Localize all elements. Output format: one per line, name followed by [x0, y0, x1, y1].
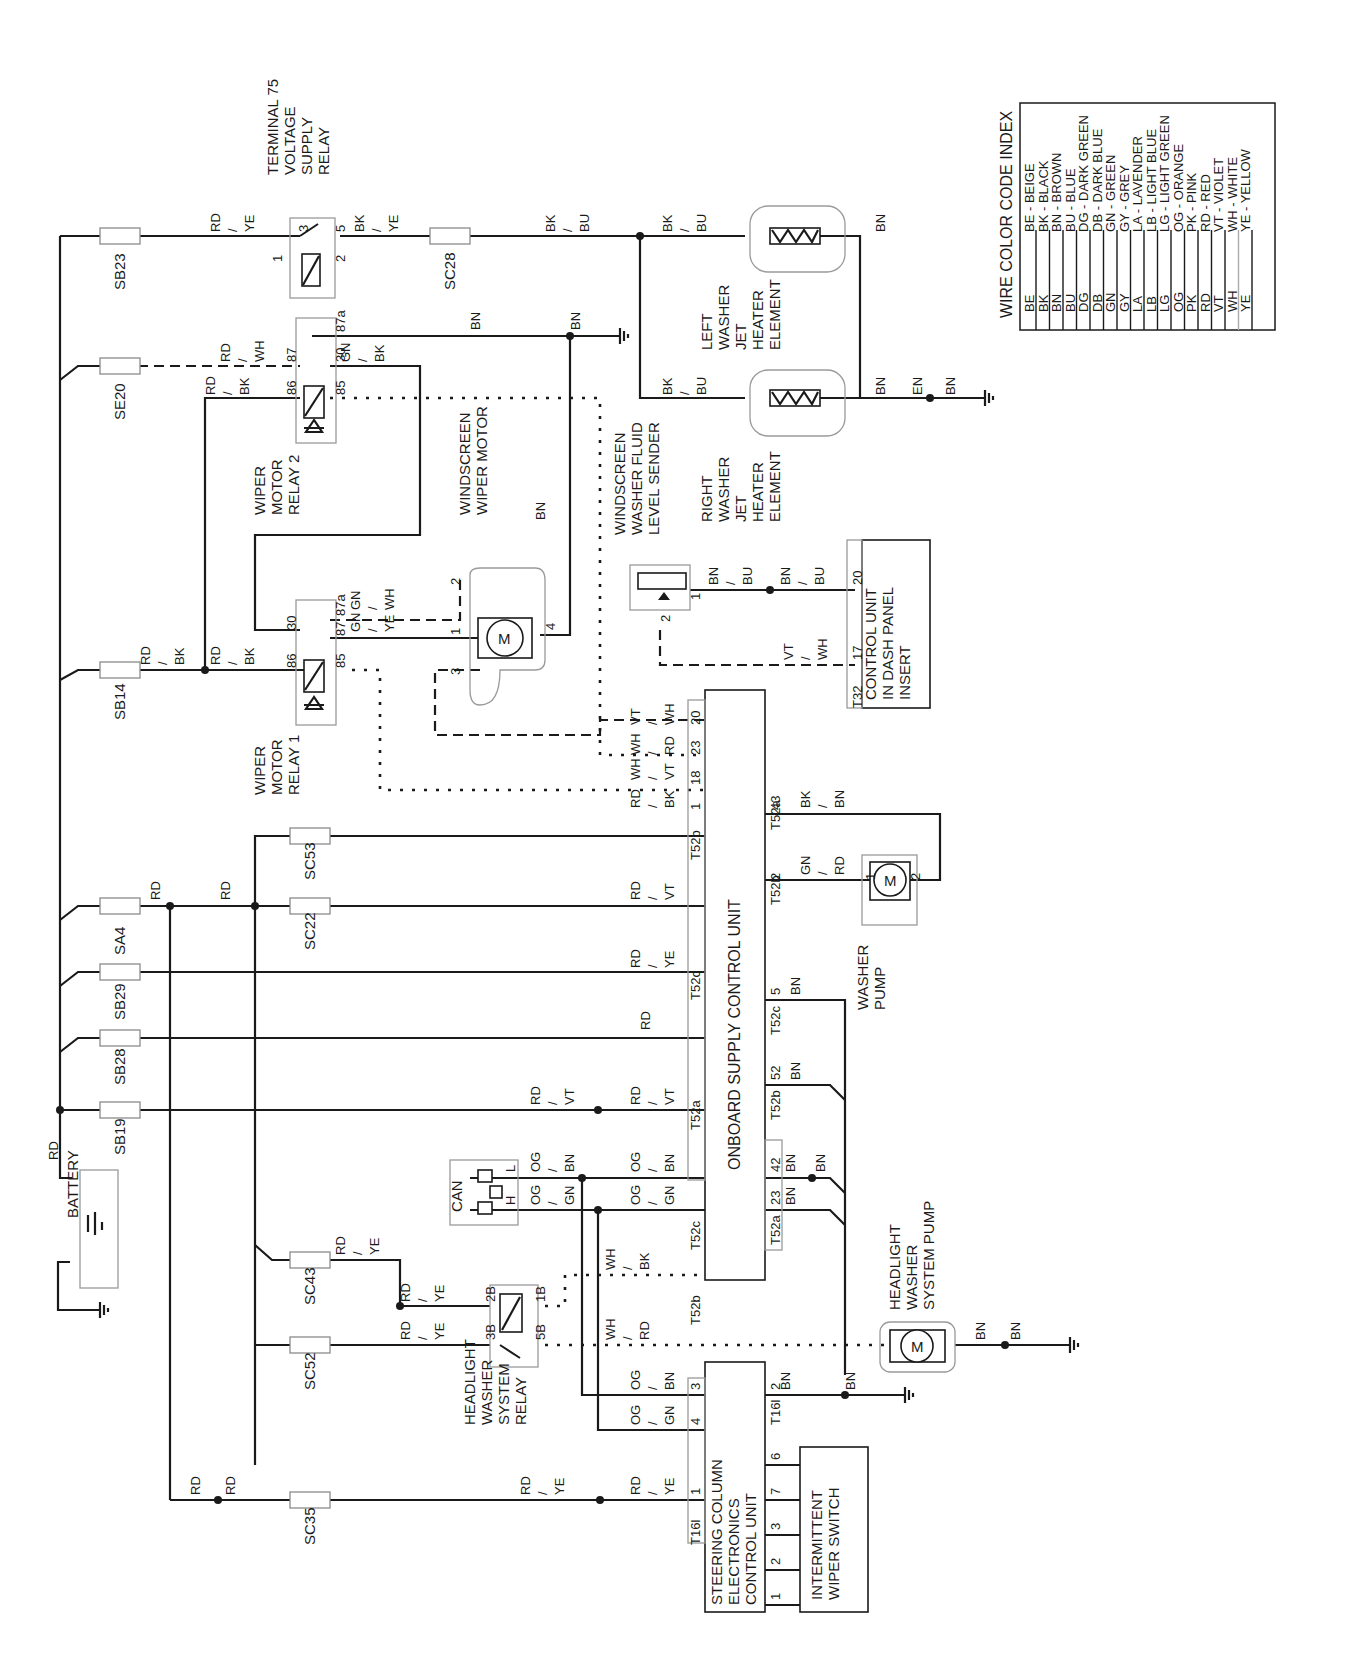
svg-text:87a: 87a — [333, 310, 348, 332]
svg-text:/: / — [365, 606, 380, 610]
svg-text:30: 30 — [333, 348, 348, 362]
connector-label-9: T52a — [768, 1215, 783, 1245]
svg-text:INSERT: INSERT — [896, 645, 913, 700]
wire-label-9: BN — [568, 312, 583, 330]
svg-text:BK: BK — [372, 344, 387, 362]
svg-text:RD: RD — [628, 1086, 643, 1105]
svg-text:RD: RD — [628, 949, 643, 968]
svg-text:/: / — [415, 1336, 430, 1340]
svg-text:RELAY: RELAY — [315, 127, 332, 175]
svg-text:EN: EN — [910, 377, 925, 395]
svg-text:T52c: T52c — [688, 1221, 703, 1250]
fuse-se20 — [100, 358, 140, 374]
svg-text:JET: JET — [732, 495, 749, 522]
svg-text:BN: BN — [783, 1187, 798, 1205]
svg-text:RD: RD — [333, 1236, 348, 1255]
svg-text:WH: WH — [628, 733, 643, 755]
svg-text:VT: VT — [628, 708, 643, 725]
intermittent-switch-label: INTERMITTENTWIPER SWITCH — [808, 1488, 842, 1601]
wire-label-1: BK/YE — [352, 214, 401, 232]
svg-text:GN: GN — [662, 1186, 677, 1206]
svg-text:RD: RD — [188, 1476, 203, 1495]
wire-label-45: RD — [223, 1476, 238, 1495]
svg-text:85: 85 — [333, 654, 348, 668]
svg-text:WIPER SWITCH: WIPER SWITCH — [825, 1488, 842, 1601]
svg-text:YE: YE — [432, 1284, 447, 1302]
wire-label-23: WH/VT — [628, 758, 677, 780]
svg-text:BN: BN — [973, 1322, 988, 1340]
svg-text:/: / — [645, 1101, 660, 1105]
headlight-relay-label: HEADLIGHTWASHERSYSTEMRELAY — [461, 1339, 529, 1425]
svg-text:GN: GN — [348, 591, 363, 611]
svg-text:BK: BK — [660, 377, 675, 395]
fuse-sc53 — [290, 828, 330, 844]
fuse-sb14 — [100, 662, 140, 678]
svg-text:BU: BU — [694, 214, 709, 232]
svg-text:RD: RD — [832, 856, 847, 875]
svg-text:SC43: SC43 — [301, 1267, 318, 1305]
wire-label-34: OG/GN — [528, 1185, 577, 1205]
wire-label-8: BN — [468, 312, 483, 330]
svg-text:86: 86 — [284, 654, 299, 668]
fluid-sender-label: WINDSCREENWASHER FLUIDLEVEL SENDER — [611, 422, 662, 535]
svg-text:2: 2 — [658, 615, 673, 622]
svg-text:WH: WH — [252, 340, 267, 362]
svg-text:BN: BN — [873, 214, 888, 232]
svg-text:CONTROL UNIT: CONTROL UNIT — [862, 588, 879, 700]
pin-label-12: 86 — [284, 654, 299, 668]
wire-label-51: BN — [788, 1062, 803, 1080]
windscreen-wiper-motor: M — [470, 568, 545, 705]
pin-label-18: 1 — [688, 593, 703, 600]
svg-text:RD: RD — [208, 646, 223, 665]
svg-text:3: 3 — [768, 1523, 783, 1530]
svg-text:BN: BN — [662, 1154, 677, 1172]
svg-text:/: / — [415, 1298, 430, 1302]
svg-text:/: / — [645, 1491, 660, 1495]
svg-text:BN: BN — [778, 567, 793, 585]
svg-text:LEVEL SENDER: LEVEL SENDER — [645, 422, 662, 535]
connector-label-2: T52a — [688, 1100, 703, 1130]
pin-label-21: 17 — [850, 646, 865, 660]
pin-label-42: 6 — [768, 1453, 783, 1460]
svg-text:RD: RD — [223, 1476, 238, 1495]
fuse-label-sc22: SC22 — [301, 912, 318, 950]
svg-text:WIPER MOTOR: WIPER MOTOR — [473, 406, 490, 515]
svg-text:6: 6 — [768, 1453, 783, 1460]
left-washer-jet-heater — [750, 206, 845, 272]
svg-text:SYSTEM: SYSTEM — [495, 1363, 512, 1425]
svg-text:/: / — [645, 1201, 660, 1205]
svg-text:WIPER: WIPER — [251, 466, 268, 515]
fuse-label-sb29: SB29 — [111, 983, 128, 1020]
pin-label-8: 85 — [333, 381, 348, 395]
wire-label-43: OG/GN — [628, 1405, 677, 1425]
wire-label-14: BN — [533, 502, 548, 520]
svg-text:RD: RD — [662, 736, 677, 755]
wire-label-25: VT/WH — [628, 703, 677, 725]
wire-label-16: RD/BK — [208, 646, 257, 665]
svg-text:BN: BN — [788, 1062, 803, 1080]
left-heater-label: LEFTWASHERJETHEATERELEMENT — [698, 279, 783, 350]
svg-text:YE: YE — [386, 214, 401, 232]
svg-text:52: 52 — [768, 1066, 783, 1080]
fuses — [100, 228, 470, 1508]
svg-text:T52a: T52a — [688, 1100, 703, 1130]
svg-text:/: / — [225, 661, 240, 665]
svg-text:/: / — [645, 804, 660, 808]
pin-label-3: 2 — [333, 255, 348, 262]
svg-text:RD: RD — [148, 881, 163, 900]
diagram-labels: TERMINAL 75VOLTAGESUPPLYRELAYWIPERMOTORR… — [46, 79, 1023, 1605]
legend-entry-ye: YEYE - YELLOW — [1238, 148, 1253, 312]
svg-text:WASHER: WASHER — [854, 945, 871, 1010]
pin-label-6: 86 — [284, 381, 299, 395]
pin-label-0: 3 — [296, 225, 311, 232]
svg-text:BK: BK — [237, 377, 252, 395]
svg-text:RELAY 1: RELAY 1 — [285, 735, 302, 795]
svg-text:ELECTRONICS: ELECTRONICS — [725, 1498, 742, 1605]
motor-symbol: M — [498, 630, 511, 647]
svg-text:86: 86 — [284, 381, 299, 395]
wire-label-58: BN — [1008, 1322, 1023, 1340]
svg-text:BATTERY: BATTERY — [64, 1150, 81, 1218]
svg-text:/: / — [795, 581, 810, 585]
pin-label-33: 2 — [908, 873, 923, 880]
wiper-motor-relay-1 — [296, 600, 336, 725]
